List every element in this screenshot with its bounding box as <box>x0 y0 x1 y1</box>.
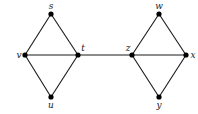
node-s <box>48 11 53 16</box>
edge-v-u <box>25 55 51 97</box>
node-w <box>156 11 161 16</box>
graph-diagram: svtuzwxy <box>0 0 198 114</box>
node-label-x: x <box>190 50 195 60</box>
node-t <box>75 52 80 57</box>
edge-s-t <box>51 14 78 55</box>
node-label-u: u <box>48 100 54 110</box>
node-x <box>183 52 188 57</box>
node-label-v: v <box>16 50 21 60</box>
node-label-s: s <box>49 1 54 11</box>
node-label-t: t <box>81 43 85 53</box>
node-y <box>156 94 161 99</box>
node-label-z: z <box>125 43 131 53</box>
edge-z-w <box>132 14 159 55</box>
edge-z-y <box>132 55 159 97</box>
node-label-y: y <box>155 100 162 110</box>
edge-w-x <box>159 14 186 55</box>
node-z <box>129 52 134 57</box>
node-u <box>48 94 53 99</box>
edges-layer <box>25 14 186 97</box>
node-v <box>22 52 27 57</box>
edge-u-t <box>51 55 78 97</box>
edge-y-x <box>159 55 186 97</box>
edge-s-v <box>25 14 51 55</box>
node-label-w: w <box>155 1 163 11</box>
graph-canvas: svtuzwxy <box>0 0 198 114</box>
